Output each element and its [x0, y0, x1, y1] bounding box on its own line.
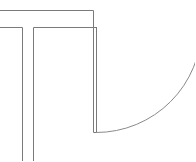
door-leaf — [94, 27, 97, 133]
inner-wall-right-segment — [34, 28, 97, 162]
door-swing-arc — [97, 28, 196, 133]
floor-plan-diagram — [0, 0, 195, 161]
inner-wall-left-segment — [0, 28, 23, 162]
outer-wall-top-line — [0, 11, 94, 28]
